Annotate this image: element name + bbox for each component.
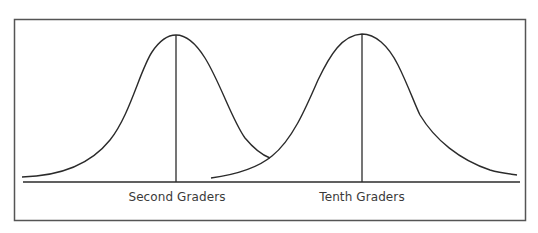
tenth-graders-label: Tenth Graders [319,190,404,204]
second-graders-curve [22,35,270,177]
tenth-graders-curve [211,34,517,178]
distribution-diagram [0,0,538,233]
second-graders-label: Second Graders [128,190,225,204]
diagram-frame [15,20,526,221]
